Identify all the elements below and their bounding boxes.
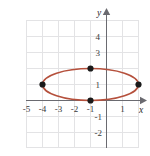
ellipse-graph-figure: -5 -4 -3 -2 -1 1 4 3 1 -1 -2 x y — [0, 0, 150, 156]
y-tick-label: 1 — [96, 80, 101, 90]
point-right-vertex — [135, 81, 141, 87]
x-tick-label: -2 — [71, 104, 79, 114]
x-tick-label: 1 — [120, 104, 125, 114]
coordinate-plane: -5 -4 -3 -2 -1 1 4 3 1 -1 -2 x y — [0, 0, 150, 156]
y-tick-label: 4 — [96, 32, 101, 42]
x-tick-labels: -5 -4 -3 -2 -1 1 — [23, 104, 125, 114]
point-left-vertex — [39, 81, 45, 87]
x-tick-label: -3 — [55, 104, 63, 114]
y-axis-label: y — [96, 8, 102, 18]
y-axis-arrowhead — [103, 8, 110, 15]
y-axis — [103, 8, 110, 148]
y-tick-label: 3 — [96, 48, 101, 58]
x-tick-label: -5 — [23, 104, 31, 114]
point-top-covertex — [87, 65, 93, 71]
point-bottom-covertex — [87, 97, 93, 103]
x-tick-label: -1 — [87, 104, 95, 114]
y-tick-label: -2 — [95, 128, 103, 138]
x-axis-label: x — [138, 105, 144, 115]
x-axis-arrowhead — [140, 97, 147, 104]
y-tick-label: -1 — [95, 112, 103, 122]
x-tick-label: -4 — [39, 104, 47, 114]
